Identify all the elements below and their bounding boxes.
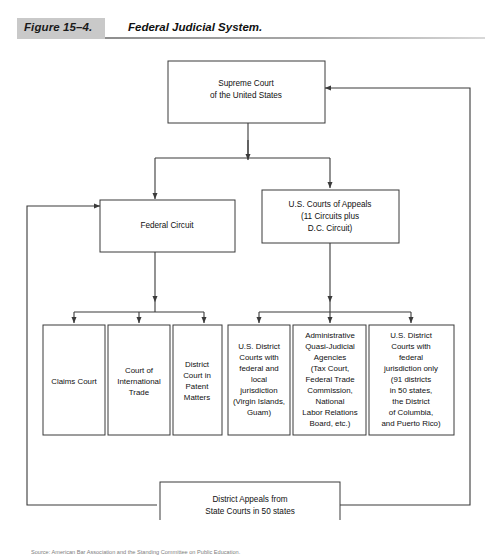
node-district-courts-local-line-2: Courts with [239, 353, 278, 362]
node-admin-agencies-line-8: Labor Relations [302, 408, 357, 417]
node-supreme-court[interactable]: Supreme Court of the United States [168, 61, 325, 123]
node-administrative-quasi-judicial-agencies[interactable]: Administrative Quasi-Judicial Agencies (… [293, 325, 366, 435]
node-district-courts-federal-line-3: federal [399, 353, 423, 362]
node-district-court-patent-line-3: Patent [186, 382, 210, 391]
node-district-court-patent-line-2: Court in [183, 371, 211, 380]
node-district-courts-federal-line-1: U.S. District [390, 331, 432, 340]
node-district-courts-federal-line-8: of Columbia, [389, 408, 433, 417]
node-court-international-trade-line-1: Court of [125, 366, 154, 375]
node-district-courts-local-line-3: federal and [239, 364, 278, 373]
node-district-courts-local-line-7: Guam) [247, 408, 271, 417]
node-district-court-patent-matters[interactable]: District Court in Patent Matters [173, 325, 222, 435]
edge-loop-right-to-supreme-court [325, 88, 470, 505]
node-district-appeals-state-courts[interactable]: District Appeals from State Courts in 50… [160, 482, 340, 520]
node-state-appeals-line-2: State Courts in 50 states [205, 507, 295, 516]
node-courts-of-appeals-line-1: U.S. Courts of Appeals [289, 200, 372, 209]
node-district-court-patent-line-4: Matters [184, 393, 210, 402]
header-rule [105, 37, 485, 39]
node-district-courts-local-line-4: local [251, 375, 267, 384]
node-district-courts-federal-line-2: Courts with [391, 342, 430, 351]
node-federal-circuit[interactable]: Federal Circuit [100, 200, 235, 252]
figure-header: Figure 15–4. Federal Judicial System. [0, 18, 497, 40]
node-supreme-court-line-1: Supreme Court [218, 79, 274, 88]
node-admin-agencies-line-2: Quasi-Judicial [305, 342, 355, 351]
node-district-courts-federal-line-5: (91 districts [391, 375, 431, 384]
node-claims-court[interactable]: Claims Court [43, 325, 105, 435]
source-note: Source: American Bar Association and the… [31, 549, 471, 556]
node-district-courts-federal-jurisdiction[interactable]: U.S. District Courts with federal jurisd… [369, 325, 454, 435]
node-courts-of-appeals[interactable]: U.S. Courts of Appeals (11 Circuits plus… [262, 190, 399, 243]
figure-title: Federal Judicial System. [128, 21, 262, 33]
node-admin-agencies-line-6: Commission, [307, 386, 353, 395]
figure-number: Figure 15–4. [24, 21, 92, 33]
federal-judicial-system-diagram: Supreme Court of the United States Feder… [0, 40, 497, 520]
node-court-international-trade-line-3: Trade [129, 388, 150, 397]
figure-container: Figure 15–4. Federal Judicial System. [0, 0, 497, 560]
node-district-court-patent-line-1: District [185, 360, 210, 369]
node-federal-circuit-line-1: Federal Circuit [140, 221, 194, 230]
node-district-courts-local-line-5: jurisdiction [239, 386, 277, 395]
node-district-courts-local-line-1: U.S. District [238, 342, 280, 351]
node-admin-agencies-line-7: National [316, 397, 345, 406]
node-district-courts-federal-line-9: and Puerto Rico) [381, 419, 441, 428]
node-admin-agencies-line-4: (Tax Court, [311, 364, 350, 373]
node-court-international-trade-line-2: International [117, 377, 161, 386]
node-supreme-court-line-2: of the United States [210, 91, 282, 100]
node-state-appeals-line-1: District Appeals from [212, 495, 287, 504]
node-district-courts-local-line-6: (Virgin Islands, [233, 397, 285, 406]
node-court-of-international-trade[interactable]: Court of International Trade [108, 325, 170, 435]
node-district-courts-federal-line-6: in 50 states, [390, 386, 433, 395]
node-courts-of-appeals-line-2: (11 Circuits plus [301, 212, 359, 221]
node-claims-court-line-1: Claims Court [51, 377, 97, 386]
node-admin-agencies-line-3: Agencies [314, 353, 347, 362]
node-district-courts-local-jurisdiction[interactable]: U.S. District Courts with federal and lo… [228, 325, 290, 435]
node-district-courts-federal-line-4: jurisdiction only [383, 364, 438, 373]
node-courts-of-appeals-line-3: D.C. Circuit) [308, 224, 353, 233]
node-admin-agencies-line-1: Administrative [305, 331, 355, 340]
node-admin-agencies-line-5: Federal Trade [305, 375, 355, 384]
node-admin-agencies-line-9: Board, etc.) [310, 419, 351, 428]
node-district-courts-federal-line-7: the District [392, 397, 430, 406]
